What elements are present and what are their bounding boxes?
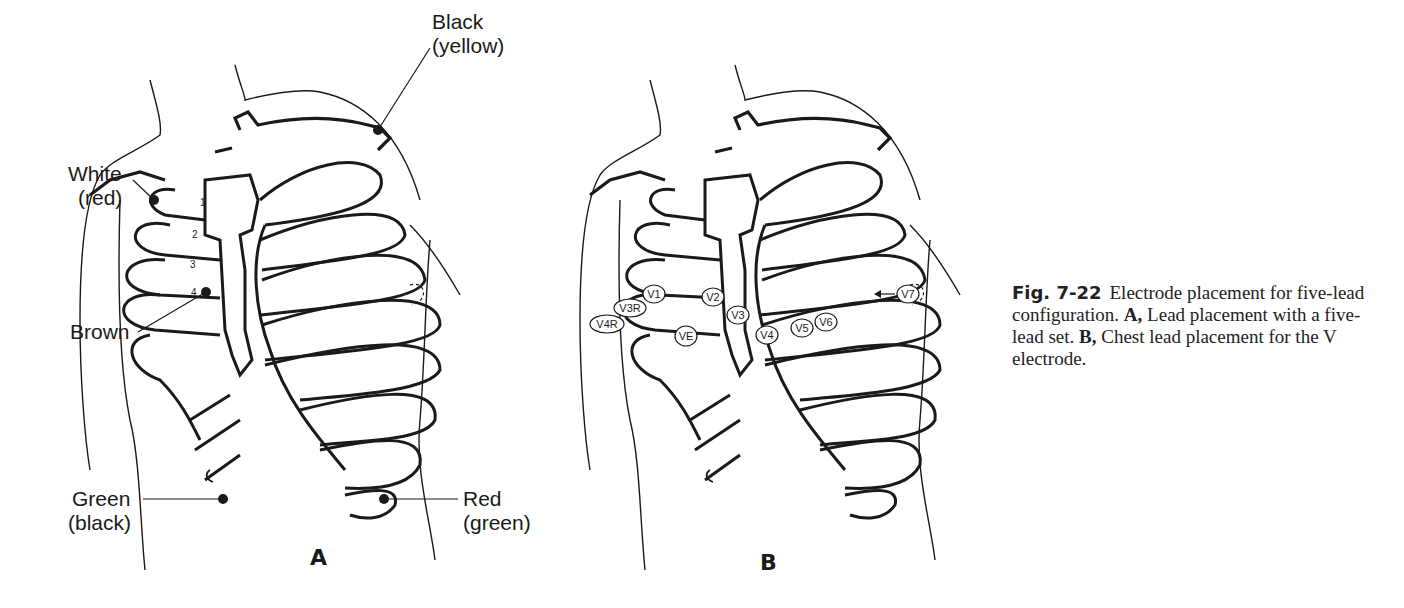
v4-label: V4 [760,329,773,341]
v1-label: V1 [647,288,660,300]
label-black-name: Black [432,10,504,34]
caption-bold-b: B, [1079,326,1096,347]
panel-label-b: B [760,550,777,575]
label-white-alt: (red) [68,186,122,210]
v3-label: V3 [731,309,744,321]
label-red-alt: (green) [463,511,531,535]
label-red-name: Red [463,487,531,511]
label-red: Red (green) [463,487,531,535]
torso-panel-b: V1 V2 V3 V4 V5 V6 V7 V3R V4R VE [580,65,960,570]
caption-bold-a: A, [1124,304,1142,325]
v3r-label: V3R [619,302,640,314]
v4r-label: V4R [596,318,617,330]
label-white-name: White [68,162,122,186]
label-black: Black (yellow) [432,10,504,58]
label-brown: Brown [70,320,130,344]
rib-number-4: 4 [191,287,197,298]
label-black-alt: (yellow) [432,34,504,58]
panel-label-a: A [310,545,327,570]
rib-number-1: 1 [200,197,206,208]
rib-number-2: 2 [192,229,198,240]
rib-number-3: 3 [190,259,196,270]
v5-label: V5 [795,322,808,334]
label-green-alt: (black) [68,511,131,535]
ve-label: VE [679,330,694,342]
figure-number: Fig. 7-22 [1012,282,1102,303]
label-green: Green (black) [72,487,131,535]
figure-caption: Fig. 7-22Electrode placement for five-le… [1012,282,1372,370]
v7-label: V7 [901,288,914,300]
torso-panel-a: 1 2 3 4 [80,48,460,570]
v6-label: V6 [819,316,832,328]
label-green-name: Green [72,487,131,511]
label-white: White (red) [68,162,122,210]
v2-label: V2 [706,291,719,303]
label-brown-name: Brown [70,320,130,344]
